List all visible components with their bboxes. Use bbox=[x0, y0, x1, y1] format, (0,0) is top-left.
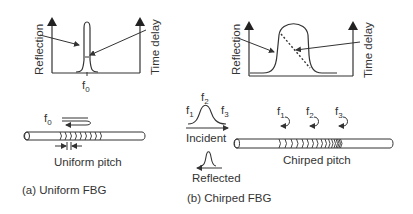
reflection-axis-label: Reflection bbox=[230, 24, 242, 75]
uniform-fiber: f0 Uniform pitch bbox=[24, 112, 145, 168]
axis-arrow-up-icon bbox=[135, 17, 145, 26]
axis-arrow-up-icon bbox=[348, 21, 358, 30]
time-delay-pointer bbox=[296, 42, 360, 50]
caption-a: (a) Uniform FBG bbox=[22, 184, 106, 196]
chirped-pitch-label: Chirped pitch bbox=[283, 154, 351, 166]
time-delay-pointer bbox=[90, 30, 146, 55]
f3-label: f3 bbox=[221, 104, 229, 119]
fiber-marker-f2: f2 bbox=[306, 105, 314, 120]
reflection-peak-curve bbox=[76, 22, 98, 72]
reflected-label: Reflected bbox=[192, 172, 241, 184]
fiber-marker-f3: f3 bbox=[335, 105, 343, 120]
reflection-axis-label: Reflection bbox=[33, 24, 45, 75]
center-frequency-label: f0 bbox=[82, 79, 90, 94]
incident-frequency-label: f0 bbox=[44, 112, 52, 127]
fiber-marker-f1: f1 bbox=[277, 105, 285, 120]
chirped-fiber: f1 f2 f3 Chirped pitch bbox=[234, 105, 393, 166]
axis-arrow-up-icon bbox=[244, 21, 254, 30]
fiber-body bbox=[24, 132, 145, 140]
f1-label: f1 bbox=[186, 104, 194, 119]
reflected-spectrum-curve bbox=[200, 152, 216, 166]
uniform-pitch-label: Uniform pitch bbox=[54, 156, 122, 168]
time-delay-axis-label: Time delay bbox=[362, 22, 374, 78]
time-delay-slope bbox=[281, 34, 310, 68]
caption-b: (b) Chirped FBG bbox=[187, 192, 271, 204]
reflected-wave-arrow bbox=[62, 121, 91, 125]
f2-label: f2 bbox=[201, 91, 209, 106]
axis-arrow-up-icon bbox=[47, 17, 57, 26]
incident-label: Incident bbox=[186, 132, 227, 144]
reflection-band-curve bbox=[250, 24, 337, 73]
chirped-fbg-plot: Reflection Time delay bbox=[230, 21, 374, 78]
fbg-diagram: f0 Reflection Time delay f0 Uniform pitc… bbox=[0, 0, 413, 214]
chirped-spectrum: f2 f1 f3 Incident Reflected bbox=[186, 91, 241, 184]
uniform-fbg-plot: f0 Reflection Time delay bbox=[33, 17, 161, 94]
time-delay-axis-label: Time delay bbox=[149, 19, 161, 75]
reflection-pointer bbox=[40, 35, 79, 45]
reflection-pointer bbox=[238, 38, 274, 52]
